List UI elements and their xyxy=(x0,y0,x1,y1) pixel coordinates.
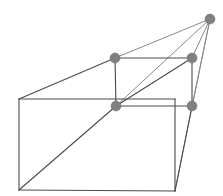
inner-bottom-right-dot xyxy=(187,101,197,111)
inner-top-left-dot xyxy=(110,53,120,63)
inner-bottom-left-dot xyxy=(111,101,121,111)
perspective-diagram-canvas xyxy=(0,0,223,196)
diagram-background xyxy=(0,0,223,196)
inner-top-right-dot xyxy=(187,53,197,63)
diagram-svg xyxy=(0,0,223,196)
vanishing-point-dot xyxy=(205,14,215,24)
